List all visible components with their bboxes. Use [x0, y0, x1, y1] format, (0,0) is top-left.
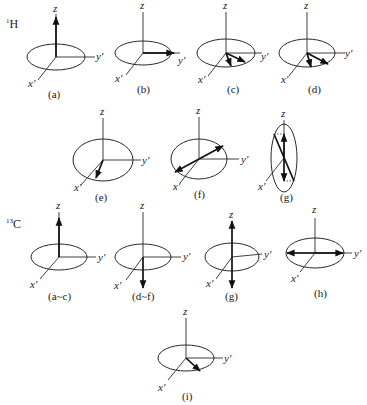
x-axis-label: x′ — [172, 180, 181, 192]
x-axis-label: x′ — [197, 73, 206, 85]
panel-caption: (d) — [308, 83, 321, 96]
panel-13C-i: z y′ x′ (i) — [157, 305, 232, 403]
x-axis-label: x′ — [157, 381, 166, 393]
panel-caption: (b) — [137, 83, 150, 96]
z-axis-label: z — [222, 0, 228, 11]
z-axis-label: z — [182, 305, 188, 317]
magnetization-vector — [96, 160, 103, 178]
z-axis-label: z — [139, 199, 145, 211]
x-axis-label: x′ — [257, 180, 266, 192]
y-axis-label: y′ — [182, 250, 191, 262]
x-axis-label: x′ — [113, 279, 122, 291]
panel-caption: (g) — [280, 191, 293, 204]
y-axis-label: y′ — [353, 247, 362, 259]
magnetization-vector-1 — [199, 146, 223, 159]
y-axis-label: y′ — [97, 251, 106, 263]
z-axis-label: z — [99, 105, 105, 117]
z-axis-label: z — [195, 104, 201, 116]
y-axis-label: y′ — [344, 47, 353, 59]
z-axis-label: z — [311, 203, 317, 215]
panel-caption: (a) — [48, 88, 61, 101]
z-axis-label: z — [228, 208, 234, 220]
panel-13C-h: z y′ x′ (h) — [286, 203, 362, 300]
section-label-13C: 13C — [6, 217, 21, 231]
x-axis-label: x′ — [290, 272, 299, 284]
panel-13C-g: z y′ x′ (g) — [205, 208, 272, 303]
panel-1H-f: z y′ x′ (f) — [171, 104, 249, 201]
panel-caption: (g) — [225, 290, 238, 303]
z-axis-label: z — [52, 2, 58, 14]
panel-caption: (c) — [227, 83, 240, 96]
panel-1H-c: z y′ x′ (c) — [197, 0, 269, 96]
panel-13C-a-c: z y′ x′ (a~c) — [29, 199, 106, 303]
z-axis-label: z — [139, 0, 145, 11]
panel-1H-g: z x′ (g) — [257, 107, 297, 204]
z-axis-label: z — [280, 107, 286, 119]
y-axis-label: y′ — [223, 352, 232, 364]
panel-caption: (i) — [182, 390, 193, 403]
x-axis-label: x′ — [29, 278, 38, 290]
x-axis-label: x′ — [27, 77, 36, 89]
magnetization-vector — [186, 358, 200, 371]
y-axis-label: y′ — [263, 248, 272, 260]
section-label-1H: 1H — [6, 17, 19, 31]
panel-caption: (d~f) — [132, 290, 155, 303]
z-axis-label: z — [55, 199, 61, 211]
panel-caption: (a~c) — [48, 290, 71, 303]
panel-1H-b: z y′ x′ (b) — [114, 0, 186, 96]
x-axis-label: x′ — [280, 73, 289, 85]
panel-1H-a: z y′ x′ (a) — [27, 2, 104, 101]
z-axis-label: z — [303, 0, 309, 11]
x-axis-label: x′ — [73, 181, 82, 193]
panel-caption: (f) — [194, 188, 205, 201]
panel-13C-d-f: z y′ x′ (d~f) — [113, 199, 191, 303]
x-axis-label: x′ — [114, 72, 123, 84]
vector-diagram: 1H z y′ x′ (a) z y′ x′ (b) z y′ x′ (c) — [0, 0, 367, 405]
panel-1H-d: z y′ x′ (d) — [279, 0, 353, 96]
panel-1H-e: z y′ x′ (e) — [73, 105, 150, 204]
y-axis-label: y′ — [177, 54, 186, 66]
y-axis-label: y′ — [260, 50, 269, 62]
panel-caption: (e) — [95, 191, 108, 204]
x-axis-label: x′ — [205, 277, 214, 289]
panel-caption: (h) — [314, 287, 327, 300]
y-axis-label: y′ — [141, 154, 150, 166]
y-axis-label: y′ — [240, 153, 249, 165]
magnetization-vector-2 — [175, 159, 199, 172]
y-axis-label: y′ — [95, 50, 104, 62]
